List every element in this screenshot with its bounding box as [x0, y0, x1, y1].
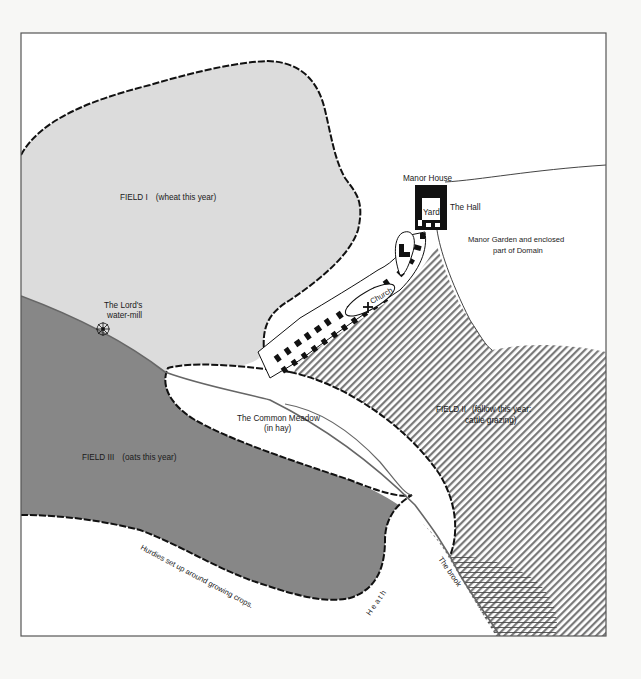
manor-house-label: Manor House [403, 174, 453, 183]
field-two-label: FIELD II(fallow this year: [436, 405, 531, 414]
manor-garden-label: Manor Garden and enclosed [468, 235, 564, 244]
field-one-label: FIELD I(wheat this year) [120, 193, 217, 202]
manor-map: FIELD I(wheat this year) FIELD III(oats … [0, 0, 641, 679]
water-wheel-icon [96, 322, 110, 336]
the-hall-label: The Hall [450, 203, 481, 212]
yard-label: Yard [423, 208, 440, 217]
common-meadow-label-line2: (in hay) [264, 424, 292, 433]
water-mill-label: The Lord's [104, 301, 142, 310]
field-three-label: FIELD III(oats this year) [82, 453, 177, 462]
field-two-label-line2: cattle grazing) [465, 416, 517, 425]
manor-garden-label-line2: part of Domain [493, 246, 543, 255]
water-mill-label-line2: water-mill [106, 311, 142, 320]
common-meadow-label: The Common Meadow [237, 414, 320, 423]
